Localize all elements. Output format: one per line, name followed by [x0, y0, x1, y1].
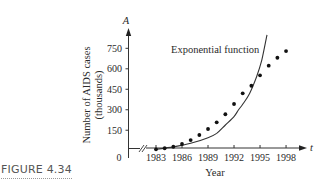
- figure-label: FIGURE 4.34: [1, 163, 72, 179]
- data-point: [241, 91, 245, 95]
- y-tick-label: 300: [107, 104, 122, 115]
- x-tick-label: 1992: [224, 152, 244, 163]
- x-tick-label: 1998: [276, 152, 296, 163]
- y-axis-title-units: (thousands): [93, 70, 105, 119]
- data-point: [163, 146, 167, 150]
- data-point: [249, 84, 253, 88]
- data-points: [154, 49, 288, 151]
- x-axis-variable: t: [310, 142, 314, 153]
- y-tick-label: 600: [107, 63, 122, 74]
- data-point: [171, 145, 175, 149]
- y-tick-label: 750: [107, 43, 122, 54]
- x-tick-label: 1989: [198, 152, 218, 163]
- data-point: [197, 133, 201, 137]
- y-axis-variable: A: [122, 15, 130, 26]
- origin-label: 0: [117, 152, 122, 163]
- y-axis-arrowhead: [126, 28, 131, 36]
- x-axis-title: Year: [205, 167, 225, 178]
- y-axis-title: Number of AIDS cases: [81, 46, 92, 143]
- data-point: [215, 120, 219, 124]
- data-point: [267, 64, 271, 68]
- data-point: [206, 127, 210, 131]
- data-point: [284, 49, 288, 53]
- x-axis-arrowhead: [299, 145, 307, 150]
- curve-annotation: Exponential function: [171, 44, 260, 55]
- y-tick-label: 150: [107, 125, 122, 136]
- data-point: [223, 112, 227, 116]
- data-point: [189, 138, 193, 142]
- y-ticks: 150300450600750: [107, 43, 129, 136]
- data-point: [258, 73, 262, 77]
- data-point: [275, 56, 279, 60]
- x-tick-label: 1983: [146, 152, 166, 163]
- y-tick-label: 450: [107, 84, 122, 95]
- x-tick-label: 1995: [250, 152, 270, 163]
- data-point: [232, 102, 236, 106]
- data-point: [154, 147, 158, 151]
- x-tick-label: 1986: [172, 152, 192, 163]
- data-point: [180, 142, 184, 146]
